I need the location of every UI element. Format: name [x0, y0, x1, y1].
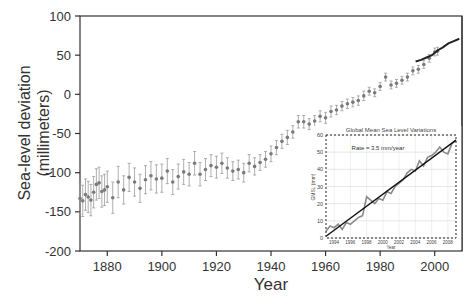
data-point — [422, 63, 426, 67]
data-point — [209, 164, 213, 168]
data-point — [346, 102, 350, 106]
data-point — [275, 146, 279, 150]
inset-y-tick-label: 40 — [317, 166, 323, 172]
data-point — [236, 168, 240, 172]
data-point — [220, 161, 224, 165]
data-point — [193, 161, 197, 165]
data-point — [318, 114, 322, 118]
data-point — [166, 169, 170, 173]
inset-y-tick-label: 50 — [317, 149, 323, 155]
data-point — [406, 75, 410, 79]
data-point — [78, 197, 82, 201]
x-tick-label: 1980 — [366, 259, 395, 274]
data-point — [81, 199, 85, 203]
y-tick-label: 50 — [57, 48, 71, 63]
inset-y-tick-label: 20 — [317, 201, 323, 207]
data-point — [127, 176, 131, 180]
data-point — [198, 172, 202, 176]
data-point — [97, 181, 101, 185]
data-point — [103, 188, 107, 192]
data-point — [182, 170, 186, 174]
data-point — [253, 165, 257, 169]
y-tick-label: -200 — [45, 244, 71, 259]
data-point — [351, 100, 355, 104]
x-tick-label: 1960 — [311, 259, 340, 274]
data-point — [324, 116, 328, 120]
y-tick-label: 100 — [49, 9, 71, 24]
data-point — [291, 130, 295, 134]
data-point — [313, 119, 317, 123]
y-tick-label: -150 — [45, 204, 71, 219]
data-point — [133, 180, 137, 184]
data-point — [389, 83, 393, 87]
x-axis-label: Year — [254, 275, 289, 294]
data-point — [226, 166, 230, 170]
data-point — [264, 158, 268, 162]
data-point — [176, 175, 180, 179]
data-point — [296, 120, 300, 124]
y-tick-label: 0 — [64, 87, 71, 102]
data-point — [373, 91, 377, 95]
sea-level-chart: 100500-50-100-150-200 188019001920194019… — [0, 0, 471, 299]
data-point — [105, 185, 109, 189]
data-point — [286, 136, 290, 140]
inset-y-tick-label: 0 — [320, 235, 323, 241]
data-point — [160, 176, 164, 180]
inset-x-label: Year — [386, 245, 396, 250]
inset-annotation: Rate = 3.5 mm/year — [352, 145, 405, 151]
x-tick-label: 1920 — [202, 259, 231, 274]
y-axis-label: Sea-level deviation — [16, 65, 33, 200]
data-point — [171, 180, 175, 184]
data-point — [89, 198, 93, 202]
data-point — [400, 78, 404, 82]
data-point — [395, 82, 399, 86]
inset-title: Global Mean Sea Level Variations — [346, 127, 436, 133]
data-point — [280, 140, 284, 144]
data-point — [340, 104, 344, 108]
data-point — [269, 152, 273, 156]
data-point — [384, 75, 388, 79]
x-tick-label: 1880 — [93, 259, 122, 274]
data-point — [204, 168, 208, 172]
data-point — [155, 177, 159, 181]
data-point — [138, 187, 142, 191]
inset-x-tick-label: 2004 — [410, 240, 421, 245]
data-point — [149, 174, 153, 178]
data-point — [231, 169, 235, 173]
x-tick-label: 1900 — [147, 259, 176, 274]
data-point — [335, 108, 339, 112]
data-point — [362, 94, 366, 98]
inset-x-tick-label: 1998 — [362, 240, 373, 245]
inset-y-tick-label: 10 — [317, 218, 323, 224]
inset-y-tick-label: 30 — [317, 184, 323, 190]
inset-x-tick-label: 1996 — [345, 240, 356, 245]
data-point — [122, 188, 126, 192]
data-point — [307, 122, 311, 126]
x-tick-label: 1940 — [257, 259, 286, 274]
data-point — [84, 193, 88, 197]
data-point — [302, 120, 306, 124]
inset-y-label: GMSL (mm) — [310, 173, 316, 200]
data-point — [367, 89, 371, 93]
data-point — [86, 195, 90, 199]
y-tick-label: -50 — [52, 126, 71, 141]
data-point — [92, 190, 96, 194]
data-point — [329, 110, 333, 114]
data-point — [111, 196, 115, 200]
data-point — [247, 161, 251, 165]
inset-x-tick-label: 1994 — [329, 240, 340, 245]
y-axis-sublabel: (millimeters) — [35, 89, 52, 176]
inset-x-tick-label: 2008 — [443, 240, 454, 245]
data-point — [378, 85, 382, 89]
data-point — [411, 69, 415, 73]
data-point — [215, 165, 219, 169]
main-x-axis: 1880190019201940196019802000 — [93, 251, 449, 274]
inset-x-tick-label: 2002 — [394, 240, 405, 245]
data-point — [242, 171, 246, 175]
data-point — [116, 180, 120, 184]
data-point — [144, 178, 148, 182]
inset-y-tick-label: 60 — [317, 132, 323, 138]
x-tick-label: 2000 — [420, 259, 449, 274]
inset-x-tick-label: 2006 — [427, 240, 438, 245]
data-point — [258, 161, 262, 165]
